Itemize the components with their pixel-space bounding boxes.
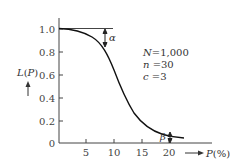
y-tick-label: 0.8 <box>39 47 55 58</box>
y-tick-label: 0.4 <box>39 93 55 104</box>
y-ticks <box>59 29 63 121</box>
y-tick-label: 0 <box>49 138 55 149</box>
y-tick-label: 1.0 <box>39 24 55 35</box>
beta-label: β <box>159 131 166 142</box>
x-ticks <box>86 139 169 143</box>
y-axis-label: L(P) <box>16 67 38 78</box>
x-axis-label: P(%) <box>205 148 230 159</box>
x-tick-label: 10 <box>108 147 121 158</box>
x-tick-label: 5 <box>83 147 89 158</box>
y-tick-label: 0.2 <box>39 116 55 127</box>
param-N: N=1,000 <box>142 47 189 58</box>
x-tick-label: 15 <box>136 147 149 158</box>
y-tick-label: 0.6 <box>39 70 55 81</box>
param-c: c =3 <box>143 71 167 82</box>
oc-chart: 1.0 0.8 0.6 0.4 0.2 0 5 10 15 20 P(%) L(… <box>0 0 240 165</box>
alpha-label: α <box>109 32 116 43</box>
alpha-arrow-icon <box>103 29 107 47</box>
param-n: n =30 <box>143 59 174 70</box>
oc-curve <box>59 29 184 139</box>
x-tick-label: 20 <box>163 147 176 158</box>
y-label-arrow-icon <box>26 81 31 96</box>
x-label-arrow-icon <box>185 151 204 156</box>
